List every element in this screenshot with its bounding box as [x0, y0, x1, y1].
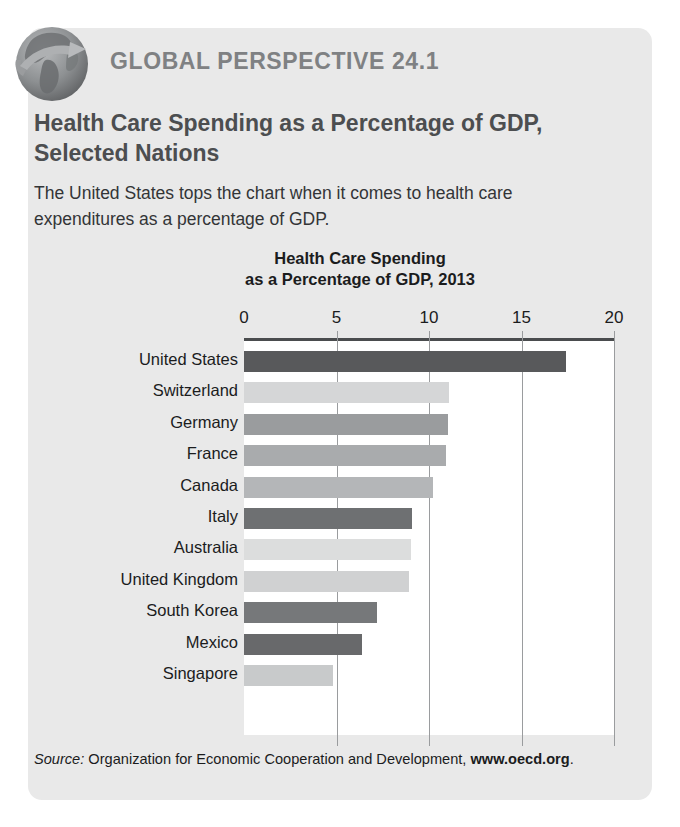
- source-url[interactable]: www.oecd.org: [470, 751, 569, 767]
- bar[interactable]: [244, 665, 333, 686]
- bar[interactable]: [244, 539, 411, 560]
- page-title: GLOBAL PERSPECTIVE 24.1: [110, 48, 439, 75]
- bar-row[interactable]: Singapore: [0, 660, 680, 691]
- globe-arrow-icon: [8, 14, 94, 110]
- bar[interactable]: [244, 445, 446, 466]
- bar-row[interactable]: Switzerland: [0, 377, 680, 408]
- tick-label-0: 0: [222, 308, 266, 328]
- bar[interactable]: [244, 414, 448, 435]
- source-label: Source:: [34, 751, 84, 767]
- tick-label-5: 5: [315, 308, 359, 328]
- bar-row[interactable]: United Kingdom: [0, 566, 680, 597]
- source-period: .: [570, 751, 574, 767]
- feature-title: Health Care Spending as a Percentage of …: [34, 108, 574, 168]
- bar-category-label: Italy: [0, 507, 238, 526]
- bar[interactable]: [244, 508, 412, 529]
- bar[interactable]: [244, 602, 377, 623]
- bar-row[interactable]: France: [0, 440, 680, 471]
- source-note: Source: Organization for Economic Cooper…: [34, 748, 624, 770]
- bar[interactable]: [244, 634, 362, 655]
- bar-row[interactable]: Mexico: [0, 629, 680, 660]
- bar[interactable]: [244, 477, 433, 498]
- tick-label-20: 20: [592, 308, 636, 328]
- bar-row[interactable]: Canada: [0, 472, 680, 503]
- feature-description: The United States tops the chart when it…: [34, 180, 564, 232]
- bar[interactable]: [244, 382, 449, 403]
- bar-category-label: Switzerland: [0, 381, 238, 400]
- bar-category-label: Australia: [0, 538, 238, 557]
- bar-category-label: Singapore: [0, 664, 238, 683]
- bar-category-label: Canada: [0, 476, 238, 495]
- bar-category-label: Mexico: [0, 633, 238, 652]
- bar-category-label: France: [0, 444, 238, 463]
- bar-row[interactable]: United States: [0, 346, 680, 377]
- tick-label-15: 15: [500, 308, 544, 328]
- chart-title: Health Care Spending as a Percentage of …: [160, 248, 560, 290]
- bar-category-label: United States: [0, 350, 238, 369]
- bar-category-label: Germany: [0, 413, 238, 432]
- bar-category-label: United Kingdom: [0, 570, 238, 589]
- tick-label-10: 10: [407, 308, 451, 328]
- bar-category-label: South Korea: [0, 601, 238, 620]
- source-text: Organization for Economic Cooperation an…: [88, 751, 466, 767]
- bar[interactable]: [244, 351, 566, 372]
- chart-title-line-2: as a Percentage of GDP, 2013: [160, 269, 560, 290]
- bar-row[interactable]: Australia: [0, 534, 680, 565]
- chart-title-line-1: Health Care Spending: [160, 248, 560, 269]
- bar-row[interactable]: Germany: [0, 409, 680, 440]
- bar[interactable]: [244, 571, 409, 592]
- bar-row[interactable]: Italy: [0, 503, 680, 534]
- bar-row[interactable]: South Korea: [0, 597, 680, 628]
